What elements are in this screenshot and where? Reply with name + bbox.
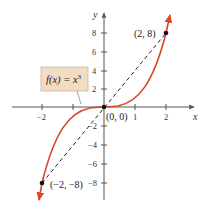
function-callout: f(x) = x3: [41, 67, 88, 104]
y-tick-label: 6: [92, 47, 96, 57]
point-neg2-neg8: [40, 181, 45, 186]
y-tick-label: 8: [92, 28, 96, 38]
point-label-2-8: (2, 8): [134, 28, 156, 40]
y-axis-label: y: [92, 9, 98, 20]
function-label: f(x) = x3: [46, 73, 82, 86]
point-2-8: [164, 31, 169, 36]
y-axis: 8 6 4 2 −2 −4 −6 −8 y: [88, 9, 107, 200]
point-label-neg2-neg8: (−2, −8): [50, 179, 83, 191]
y-tick-label: −6: [88, 159, 97, 169]
cubic-function-graph: −2 1 2 x 8 6 4 2 −2 −4 −6 −8 y (2, 8) (0…: [0, 0, 211, 214]
x-tick-label: 2: [164, 112, 168, 122]
point-label-origin: (0, 0): [106, 111, 128, 123]
y-tick-label: −4: [88, 140, 98, 150]
y-tick-label: 4: [92, 66, 97, 76]
curve-arrow-up: [166, 15, 170, 33]
x-tick-label: 1: [133, 112, 137, 122]
x-tick-label: −2: [37, 112, 46, 122]
y-tick-label: 2: [92, 84, 96, 94]
point-origin: [102, 105, 107, 110]
x-axis-label: x: [192, 111, 198, 122]
y-tick-label: −8: [88, 178, 97, 188]
curve-arrow-down: [39, 183, 42, 200]
